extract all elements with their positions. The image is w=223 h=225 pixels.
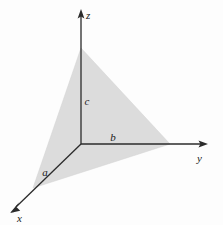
x-axis-label: x (16, 212, 22, 224)
figure-canvas: z y x a b c (0, 0, 223, 225)
intercept-label-a: a (42, 166, 48, 178)
z-axis-label: z (85, 9, 91, 21)
coordinate-system-diagram: z y x a b c (0, 0, 223, 225)
intercept-label-b: b (110, 131, 116, 143)
y-axis-label: y (196, 152, 202, 164)
plane-triangle (33, 48, 170, 188)
intercept-label-c: c (85, 95, 90, 107)
